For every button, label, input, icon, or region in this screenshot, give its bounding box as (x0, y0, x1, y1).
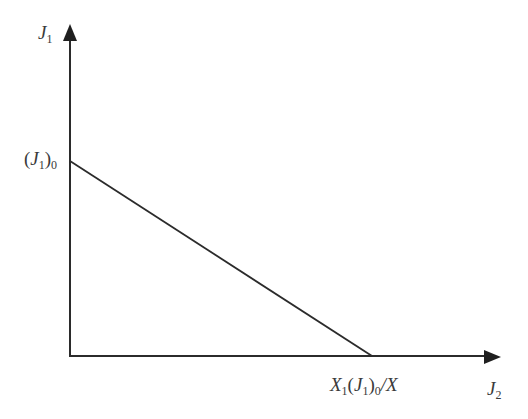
y-intercept-label: (J1)0 (24, 148, 57, 173)
relation-line (70, 161, 372, 356)
x-axis-label: J2 (487, 378, 501, 403)
x-intercept-label: X1(J1)0/X (330, 374, 398, 399)
x-axis-arrow-icon (484, 350, 501, 364)
y-axis-arrow-icon (63, 24, 77, 41)
y-axis-label: J1 (38, 22, 52, 47)
diagram-canvas (0, 0, 528, 419)
